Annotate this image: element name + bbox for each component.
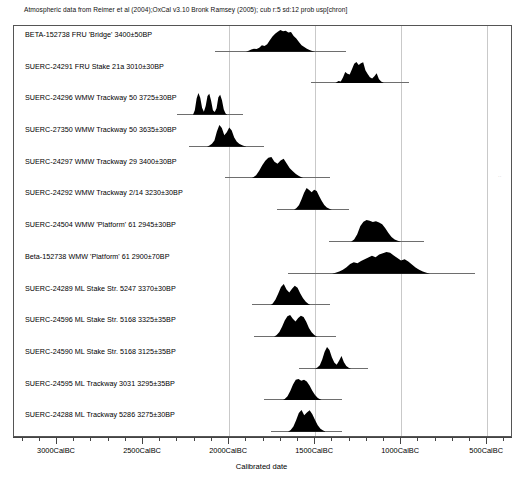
sample-label: Beta-152738 WMW 'Platform' 61 2900±70BP [25,252,170,261]
sample-label: SUERC-24595 ML Trackway 3031 3295±35BP [25,379,175,388]
sample-label: SUERC-24291 FRU Stake 21a 3010±30BP [25,62,164,71]
tick-label-1000: 1000CalBC [381,446,419,455]
sample-label: SUERC-24590 ML Stake Str. 5168 3125±35BP [25,347,176,356]
tick-label-2000: 2000CalBC [209,446,247,455]
sample-row: SUERC-24288 ML Trackway 5286 3275±30BP [14,406,511,437]
sample-row: SUERC-24595 ML Trackway 3031 3295±35BP [14,375,511,407]
major-tick-2500 [142,437,143,444]
major-tick-500 [486,437,487,444]
sample-label: SUERC-24289 ML Stake Str. 5247 3370±30BP [25,284,176,293]
sample-row: SUERC-24296 WMW Trackway 50 3725±30BP [14,89,511,121]
minor-tick-1300 [349,437,350,441]
minor-tick-1100 [383,437,384,441]
plot-caption: Atmospheric data from Reimer et al (2004… [24,6,347,13]
minor-tick-2100 [211,437,212,441]
minor-tick-2900 [73,437,74,441]
probability-distribution [332,250,430,274]
minor-tick-1600 [297,437,298,441]
probability-distribution [246,28,315,52]
probability-distribution [315,345,351,369]
x-axis-title: Calibrated date [0,462,523,471]
sample-label: SUERC-24504 WMW 'Platform' 61 2945±30BP [25,220,176,229]
sample-label: SUERC-24297 WMW Trackway 29 3400±30BP [25,157,177,166]
sample-row: SUERC-24289 ML Stake Str. 5247 3370±30BP [14,280,511,312]
probability-distribution [270,282,311,306]
oxcal-plot-page: Atmospheric data from Reimer et al (2004… [0,0,523,487]
sample-label: SUERC-24288 ML Trackway 5286 3275±30BP [25,410,175,419]
minor-tick-3200 [22,437,23,441]
probability-distribution [288,408,326,432]
probability-distribution [274,313,317,337]
probability-distribution [250,155,305,179]
plot-area: BETA-152738 FRU 'Bridge' 3400±50BPSUERC-… [13,25,512,437]
sample-row: SUERC-24590 ML Stake Str. 5168 3125±35BP [14,343,511,375]
minor-tick-2300 [176,437,177,441]
sample-row: SUERC-27350 WMW Trackway 50 3635±30BP [14,121,511,153]
sample-label: BETA-152738 FRU 'Bridge' 3400±50BP [25,30,152,39]
sample-row: SUERC-24596 ML Stake Str. 5168 3325±35BP [14,311,511,343]
minor-tick-3100 [39,437,40,441]
minor-tick-1900 [245,437,246,441]
probability-distribution [351,218,401,242]
major-tick-3000 [56,437,57,444]
stray-artifact-mark: ·· [498,174,503,179]
tick-label-3000: 3000CalBC [37,446,75,455]
tick-label-500: 500CalBC [469,446,503,455]
minor-tick-2600 [125,437,126,441]
tick-label-2500: 2500CalBC [123,446,161,455]
sample-label: SUERC-24296 WMW Trackway 50 3725±30BP [25,93,177,102]
minor-tick-700 [452,437,453,441]
minor-tick-2200 [194,437,195,441]
major-tick-2000 [228,437,229,444]
probability-distribution [334,60,386,84]
minor-tick-800 [435,437,436,441]
minor-tick-1800 [263,437,264,441]
sample-label: SUERC-27350 WMW Trackway 50 3635±30BP [25,125,177,134]
minor-tick-400 [503,437,504,441]
sample-row: BETA-152738 FRU 'Bridge' 3400±50BP [14,26,511,58]
major-tick-1500 [314,437,315,444]
probability-distribution [207,123,247,147]
minor-tick-600 [469,437,470,441]
sample-row: SUERC-24291 FRU Stake 21a 3010±30BP [14,58,511,90]
minor-tick-1400 [331,437,332,441]
minor-tick-2800 [90,437,91,441]
sample-label: SUERC-24292 WMW Trackway 2/14 3230±30BP [25,188,183,197]
minor-tick-2400 [159,437,160,441]
major-tick-1000 [400,437,401,444]
sample-row: SUERC-24292 WMW Trackway 2/14 3230±30BP [14,184,511,216]
tick-label-1500: 1500CalBC [295,446,333,455]
minor-tick-900 [417,437,418,441]
probability-distribution [294,186,332,210]
sample-row: SUERC-24504 WMW 'Platform' 61 2945±30BP [14,216,511,248]
minor-tick-1200 [366,437,367,441]
sample-row: Beta-152738 WMW 'Platform' 61 2900±70BP [14,248,511,280]
probability-distribution [193,91,227,115]
probability-distribution [282,377,323,401]
minor-tick-2700 [108,437,109,441]
sample-label: SUERC-24596 ML Stake Str. 5168 3325±35BP [25,315,176,324]
minor-tick-1700 [280,437,281,441]
sample-row: SUERC-24297 WMW Trackway 29 3400±30BP [14,153,511,185]
